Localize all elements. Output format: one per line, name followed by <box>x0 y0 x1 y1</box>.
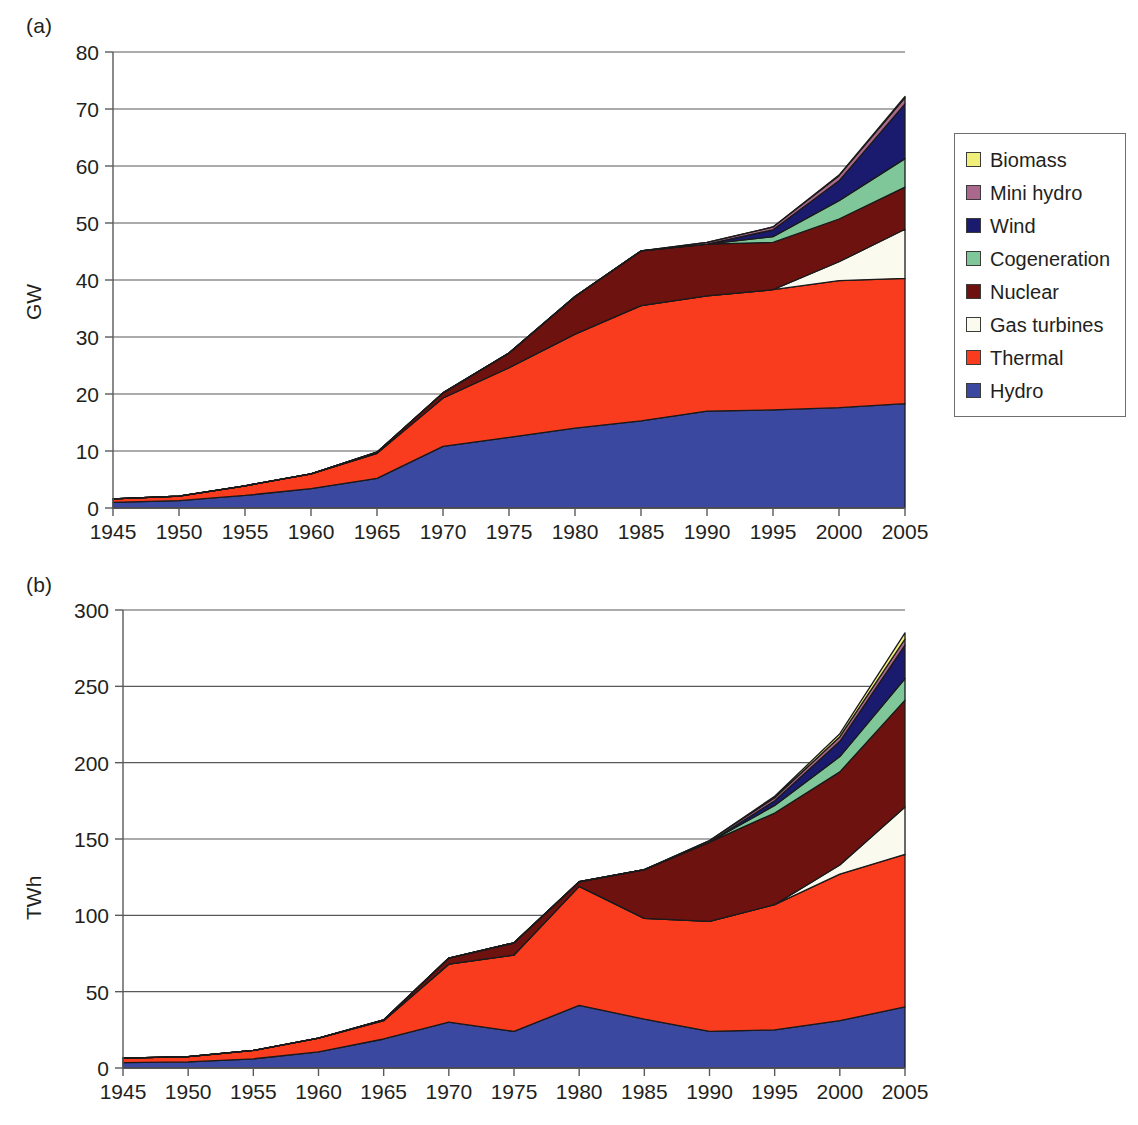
x-tick-label: 1950 <box>165 1080 212 1103</box>
legend-label: Mini hydro <box>990 183 1082 203</box>
x-tick-label: 1970 <box>425 1080 472 1103</box>
x-tick-label: 1985 <box>621 1080 668 1103</box>
legend-item-biomass: Biomass <box>966 143 1113 176</box>
legend-label: Biomass <box>990 150 1067 170</box>
stacked-area-chart-b: 0501001502002503001945195019551960196519… <box>0 560 960 1125</box>
x-tick-label: 2000 <box>816 520 863 543</box>
legend-swatch-thermal-icon <box>966 350 981 365</box>
x-tick-label: 1990 <box>686 1080 733 1103</box>
x-tick-label: 1960 <box>295 1080 342 1103</box>
x-tick-label: 1975 <box>486 520 533 543</box>
legend-label: Cogeneration <box>990 249 1110 269</box>
x-tick-label: 1980 <box>552 520 599 543</box>
y-tick-label: 100 <box>74 904 109 927</box>
x-tick-label: 1990 <box>684 520 731 543</box>
y-tick-label: 50 <box>76 212 99 235</box>
legend-item-mini-hydro: Mini hydro <box>966 176 1113 209</box>
x-tick-label: 1955 <box>222 520 269 543</box>
x-tick-label: 1960 <box>288 520 335 543</box>
legend-item-thermal: Thermal <box>966 341 1113 374</box>
legend-swatch-mini-hydro-icon <box>966 185 981 200</box>
y-tick-label: 40 <box>76 269 99 292</box>
y-tick-label: 300 <box>74 599 109 622</box>
legend-label: Hydro <box>990 381 1043 401</box>
legend-label: Gas turbines <box>990 315 1103 335</box>
y-tick-label: 200 <box>74 752 109 775</box>
x-tick-label: 1955 <box>230 1080 277 1103</box>
legend-swatch-gas-turbines-icon <box>966 317 981 332</box>
legend-item-gas-turbines: Gas turbines <box>966 308 1113 341</box>
x-tick-label: 1970 <box>420 520 467 543</box>
y-tick-label: 50 <box>86 981 109 1004</box>
x-tick-label: 1965 <box>354 520 401 543</box>
x-tick-label: 2000 <box>816 1080 863 1103</box>
legend-a: BiomassMini hydroWindCogenerationNuclear… <box>954 133 1126 417</box>
chart-panel-b: (b) TWh 05010015020025030019451950195519… <box>0 560 1138 1125</box>
y-tick-label: 250 <box>74 675 109 698</box>
y-tick-label: 30 <box>76 326 99 349</box>
y-tick-label: 80 <box>76 41 99 64</box>
x-tick-label: 2005 <box>882 520 929 543</box>
legend-label: Thermal <box>990 348 1063 368</box>
y-tick-label: 0 <box>97 1057 109 1080</box>
y-tick-label: 60 <box>76 155 99 178</box>
legend-item-cogeneration: Cogeneration <box>966 242 1113 275</box>
x-tick-label: 1985 <box>618 520 665 543</box>
legend-swatch-nuclear-icon <box>966 284 981 299</box>
x-tick-label: 1945 <box>100 1080 147 1103</box>
x-tick-label: 1975 <box>491 1080 538 1103</box>
legend-item-wind: Wind <box>966 209 1113 242</box>
legend-swatch-cogeneration-icon <box>966 251 981 266</box>
legend-item-hydro: Hydro <box>966 374 1113 407</box>
legend-swatch-wind-icon <box>966 218 981 233</box>
x-tick-label: 1995 <box>751 1080 798 1103</box>
x-tick-label: 1950 <box>156 520 203 543</box>
y-tick-label: 70 <box>76 98 99 121</box>
y-tick-label: 20 <box>76 383 99 406</box>
x-tick-label: 1980 <box>556 1080 603 1103</box>
x-tick-label: 2005 <box>882 1080 929 1103</box>
stacked-area-chart-a: 0102030405060708019451950195519601965197… <box>0 0 960 560</box>
legend-item-nuclear: Nuclear <box>966 275 1113 308</box>
chart-panel-a: (a) GW 010203040506070801945195019551960… <box>0 0 1138 560</box>
x-tick-label: 1965 <box>360 1080 407 1103</box>
y-tick-label: 150 <box>74 828 109 851</box>
legend-label: Wind <box>990 216 1036 236</box>
y-tick-label: 10 <box>76 440 99 463</box>
legend-label: Nuclear <box>990 282 1059 302</box>
legend-swatch-biomass-icon <box>966 152 981 167</box>
y-tick-label: 0 <box>87 497 99 520</box>
x-tick-label: 1995 <box>750 520 797 543</box>
x-tick-label: 1945 <box>90 520 137 543</box>
legend-swatch-hydro-icon <box>966 383 981 398</box>
